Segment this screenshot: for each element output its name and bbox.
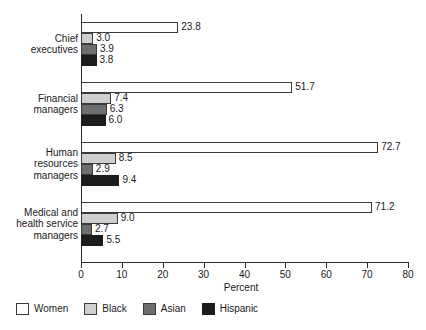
- bar-value-label: 3.8: [97, 54, 114, 66]
- bar-value-label: 5.5: [103, 234, 120, 246]
- legend-item-black: Black: [84, 303, 126, 315]
- bar-hispanic: [81, 235, 103, 246]
- x-tick-label-30: 30: [198, 269, 209, 281]
- bar-row: 6.0: [81, 115, 408, 126]
- bar-value-label: 72.7: [378, 141, 400, 153]
- bar-value-label: 6.0: [106, 114, 123, 126]
- bar-asian: [81, 44, 97, 55]
- bar-group: 71.29.02.75.5: [81, 202, 408, 246]
- legend-swatch-women: [16, 303, 29, 315]
- category-label: Medical and health service managers: [16, 207, 78, 242]
- bar-row: 9.4: [81, 175, 408, 186]
- legend-swatch-black: [84, 303, 97, 315]
- x-axis-title: Percent: [0, 282, 426, 293]
- legend-item-women: Women: [16, 303, 68, 315]
- bar-row: 2.7: [81, 224, 408, 235]
- legend-item-hispanic: Hispanic: [202, 303, 258, 315]
- bar-value-label: 9.0: [118, 212, 135, 224]
- x-tick-label-50: 50: [280, 269, 291, 281]
- x-tick-label-20: 20: [157, 269, 168, 281]
- legend-swatch-hispanic: [202, 303, 215, 315]
- x-tick-label-80: 80: [402, 269, 413, 281]
- bar-hispanic: [81, 175, 119, 186]
- bar-value-label: 9.4: [119, 174, 136, 186]
- bar-row: 51.7: [81, 82, 408, 93]
- bar-group: 51.77.46.36.0: [81, 82, 408, 126]
- x-tick-label-70: 70: [362, 269, 373, 281]
- legend-label: Asian: [161, 303, 186, 315]
- bar-row: 3.0: [81, 33, 408, 44]
- bar-group: 23.83.03.93.8: [81, 22, 408, 66]
- category-label: Financial managers: [34, 93, 78, 116]
- x-tick-0: [81, 262, 82, 268]
- category-label: Chief executives: [31, 33, 78, 56]
- legend-item-asian: Asian: [143, 303, 186, 315]
- bar-value-label: 71.2: [372, 201, 394, 213]
- x-tick-label-10: 10: [116, 269, 127, 281]
- bar-row: 6.3: [81, 104, 408, 115]
- chart-legend: WomenBlackAsianHispanic: [16, 303, 274, 315]
- bar-row: 9.0: [81, 213, 408, 224]
- x-tick-70: [367, 262, 368, 268]
- legend-label: Women: [34, 303, 68, 315]
- x-axis-title-label: Percent: [224, 282, 258, 293]
- x-tick-60: [326, 262, 327, 268]
- bar-asian: [81, 224, 92, 235]
- bar-row: 3.9: [81, 44, 408, 55]
- bar-row: 3.8: [81, 55, 408, 66]
- bar-group: 72.78.52.99.4: [81, 142, 408, 186]
- bar-value-label: 8.5: [116, 152, 133, 164]
- legend-swatch-asian: [143, 303, 156, 315]
- bar-asian: [81, 104, 107, 115]
- x-tick-10: [122, 262, 123, 268]
- bar-value-label: 51.7: [292, 81, 314, 93]
- bar-hispanic: [81, 55, 97, 66]
- bar-value-label: 23.8: [178, 21, 200, 33]
- x-tick-label-40: 40: [239, 269, 250, 281]
- legend-label: Black: [102, 303, 126, 315]
- x-tick-label-60: 60: [321, 269, 332, 281]
- x-tick-label-0: 0: [78, 269, 84, 281]
- x-tick-80: [408, 262, 409, 268]
- bar-chart: 01020304050607080 Percent 23.83.03.93.85…: [0, 0, 426, 330]
- legend-label: Hispanic: [220, 303, 258, 315]
- bar-asian: [81, 164, 93, 175]
- bar-hispanic: [81, 115, 106, 126]
- bar-row: 8.5: [81, 153, 408, 164]
- bar-row: 5.5: [81, 235, 408, 246]
- bar-row: 7.4: [81, 93, 408, 104]
- x-tick-20: [163, 262, 164, 268]
- x-tick-50: [285, 262, 286, 268]
- x-tick-30: [204, 262, 205, 268]
- bar-row: 23.8: [81, 22, 408, 33]
- category-label: Human resources managers: [34, 147, 78, 182]
- bar-black: [81, 33, 93, 44]
- x-tick-40: [245, 262, 246, 268]
- bar-value-label: 2.9: [93, 163, 110, 175]
